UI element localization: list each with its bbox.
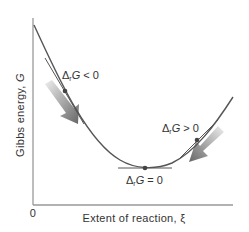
annotation-delta-g-negative: ΔrG < 0: [62, 69, 99, 82]
point-right: [195, 138, 200, 143]
point-left: [63, 89, 68, 94]
gibbs-diagram: Gibbs energy, G 0 Extent of reaction, ξ …: [0, 0, 249, 232]
origin-label: 0: [30, 207, 36, 219]
point-min: [143, 166, 148, 171]
annotation-delta-g-zero: ΔrG = 0: [126, 174, 163, 187]
x-axis-label: Extent of reaction, ξ: [83, 212, 186, 224]
annotation-delta-g-positive: ΔrG > 0: [162, 122, 199, 135]
y-axis-label: Gibbs energy, G: [14, 73, 26, 157]
